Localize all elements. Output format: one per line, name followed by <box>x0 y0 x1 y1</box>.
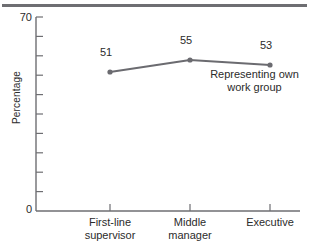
y-axis-max-label: 70 <box>8 11 32 23</box>
x-axis-label-line1: First-line <box>63 216 157 229</box>
y-axis-ticks <box>36 17 43 192</box>
data-label-first-line-supervisor: 51 <box>92 46 120 58</box>
x-axis-label-line1: Executive <box>228 216 311 229</box>
data-point-middle-manager <box>187 57 192 62</box>
chart-figure: Percentage 70 0 51 55 53 First-line supe… <box>0 0 311 248</box>
x-axis-label-line1: Middle <box>146 216 234 229</box>
y-axis-min-label: 0 <box>8 203 32 215</box>
x-axis-label-line2: manager <box>146 229 234 242</box>
x-axis-label-line2: supervisor <box>63 229 157 242</box>
data-label-middle-manager: 55 <box>172 34 200 46</box>
series-annotation-line1: Representing own <box>198 68 311 81</box>
data-label-executive: 53 <box>252 39 280 51</box>
data-point-executive <box>267 62 272 67</box>
series-annotation-line2: work group <box>198 81 311 94</box>
x-axis-label-first-line-supervisor: First-line supervisor <box>63 216 157 242</box>
series-annotation: Representing own work group <box>198 68 311 94</box>
chart-plot-area <box>0 0 311 248</box>
x-axis-label-middle-manager: Middle manager <box>146 216 234 242</box>
data-point-first-line-supervisor <box>107 69 112 74</box>
x-axis-ticks <box>110 204 270 211</box>
x-axis-label-executive: Executive <box>228 216 311 229</box>
y-axis-title: Percentage <box>11 50 22 146</box>
